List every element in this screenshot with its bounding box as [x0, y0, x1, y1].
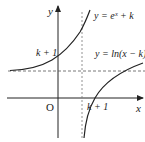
y-intercept-label: k + 1	[36, 48, 57, 58]
y-axis-label: y	[48, 6, 53, 17]
function-graph: y x O y = eˣ + k y = ln(x − k) k + 1 k +…	[0, 0, 145, 142]
log-curve-label: y = ln(x − k)	[95, 49, 145, 59]
x-intercept-label: k + 1	[87, 102, 108, 112]
origin-label: O	[46, 102, 54, 113]
graph-canvas	[0, 0, 145, 142]
x-axis-label: x	[136, 103, 141, 114]
exponential-curve	[10, 10, 90, 71]
exp-curve-label: y = eˣ + k	[94, 11, 134, 21]
